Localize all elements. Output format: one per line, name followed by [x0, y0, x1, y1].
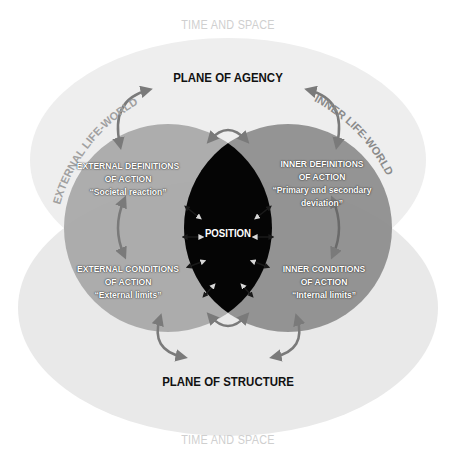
time-and-space-top-label: TIME AND SPACE: [181, 18, 275, 32]
external-conditions-line1: EXTERNAL CONDITIONS: [77, 262, 179, 275]
external-definitions-line1: EXTERNAL DEFINITIONS: [77, 159, 179, 172]
plane-of-structure-label: PLANE OF STRUCTURE: [162, 374, 294, 389]
external-definitions-line3: “Societal reaction”: [77, 185, 179, 198]
inner-definitions-label: INNER DEFINITIONS OF ACTION “Primary and…: [273, 157, 372, 209]
inner-conditions-line2: OF ACTION: [283, 275, 366, 288]
inner-conditions-label: INNER CONDITIONS OF ACTION “Internal lim…: [283, 262, 366, 301]
external-definitions-label: EXTERNAL DEFINITIONS OF ACTION “Societal…: [77, 159, 179, 198]
agency-structure-diagram: EXTERNAL LIFE-WORLD INNER LIFE-WORLD TIM…: [0, 0, 457, 455]
inner-conditions-line3: “Internal limits”: [283, 288, 366, 301]
inner-definitions-line4: deviation”: [273, 196, 372, 209]
inner-definitions-line2: OF ACTION: [273, 170, 372, 183]
external-conditions-label: EXTERNAL CONDITIONS OF ACTION “External …: [77, 262, 179, 301]
external-conditions-line3: “External limits”: [77, 288, 179, 301]
time-and-space-bottom-label: TIME AND SPACE: [181, 433, 275, 447]
inner-definitions-line1: INNER DEFINITIONS: [273, 157, 372, 170]
plane-of-agency-label: PLANE OF AGENCY: [173, 70, 283, 85]
external-definitions-line2: OF ACTION: [77, 172, 179, 185]
inner-conditions-line1: INNER CONDITIONS: [283, 262, 366, 275]
external-conditions-line2: OF ACTION: [77, 275, 179, 288]
position-label: POSITION: [205, 227, 251, 239]
inner-definitions-line3: “Primary and secondary: [273, 183, 372, 196]
